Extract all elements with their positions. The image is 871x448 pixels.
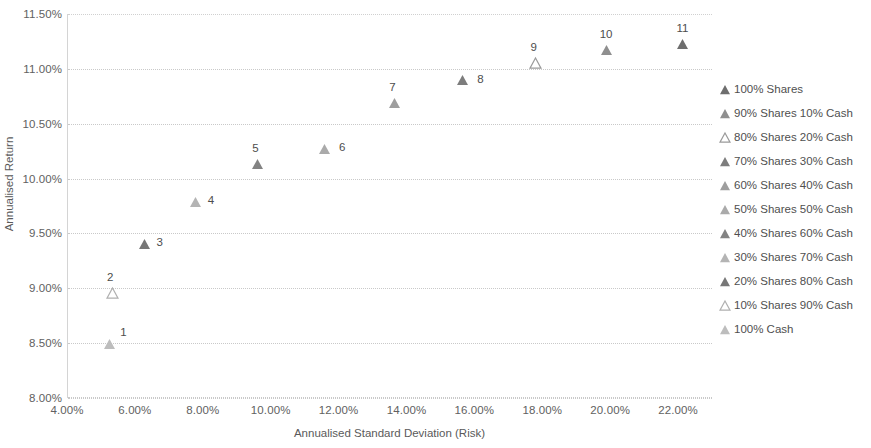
data-point-label: 6 — [339, 141, 345, 153]
legend-item-label: 10% Shares 90% Cash — [734, 300, 853, 312]
x-axis-tick-label: 6.00% — [118, 404, 151, 416]
x-axis-tick-label: 16.00% — [455, 404, 495, 416]
legend-item[interactable]: 10% Shares 90% Cash — [718, 294, 868, 318]
legend-item-label: 80% Shares 20% Cash — [734, 132, 853, 144]
gridline-horizontal — [68, 343, 712, 344]
gridline-horizontal — [68, 69, 712, 70]
legend-item-label: 100% Cash — [734, 324, 793, 336]
x-axis-title: Annualised Standard Deviation (Risk) — [67, 427, 712, 439]
y-axis-tick-label: 9.50% — [2, 227, 62, 239]
y-axis-tick-label: 11.50% — [2, 8, 62, 20]
data-point-label: 9 — [531, 41, 537, 53]
legend-item[interactable]: 90% Shares 10% Cash — [718, 102, 868, 126]
gridline-horizontal — [68, 124, 712, 125]
y-axis-tick-label: 10.00% — [2, 173, 62, 185]
legend-item[interactable]: 20% Shares 80% Cash — [718, 270, 868, 294]
gridline-horizontal — [68, 14, 712, 15]
legend-marker-icon — [718, 252, 731, 265]
chart-legend: 100% Shares90% Shares 10% Cash80% Shares… — [718, 78, 868, 342]
data-point-label: 7 — [389, 81, 395, 93]
legend-item-label: 70% Shares 30% Cash — [734, 156, 853, 168]
y-axis-tick-label: 9.00% — [2, 282, 62, 294]
legend-marker-icon — [718, 276, 731, 289]
legend-item-label: 60% Shares 40% Cash — [734, 180, 853, 192]
plot-area: 1110987654321 — [67, 14, 712, 398]
x-axis-tick-label: 12.00% — [319, 404, 359, 416]
legend-item[interactable]: 40% Shares 60% Cash — [718, 222, 868, 246]
gridline-horizontal — [68, 288, 712, 289]
gridline-horizontal — [68, 179, 712, 180]
y-axis-tick-label: 11.00% — [2, 63, 62, 75]
legend-marker-icon — [718, 324, 731, 337]
legend-item-label: 90% Shares 10% Cash — [734, 108, 853, 120]
data-point-label: 5 — [252, 142, 258, 154]
x-axis-tick-label: 22.00% — [658, 404, 698, 416]
legend-item-label: 100% Shares — [734, 84, 803, 96]
x-axis-tick-label: 18.00% — [522, 404, 562, 416]
legend-marker-icon — [718, 132, 731, 145]
legend-item-label: 20% Shares 80% Cash — [734, 276, 853, 288]
gridline-horizontal — [68, 398, 712, 399]
x-axis-tick-label: 4.00% — [50, 404, 83, 416]
legend-marker-icon — [718, 300, 731, 313]
data-point-label: 1 — [120, 326, 126, 338]
legend-marker-icon — [718, 84, 731, 97]
x-axis-line — [68, 397, 712, 398]
legend-item[interactable]: 100% Cash — [718, 318, 868, 342]
data-point-label: 11 — [676, 22, 688, 34]
legend-marker-icon — [718, 156, 731, 169]
x-axis-tick-label: 10.00% — [251, 404, 291, 416]
legend-item-label: 30% Shares 70% Cash — [734, 252, 853, 264]
legend-item-label: 50% Shares 50% Cash — [734, 204, 853, 216]
legend-item[interactable]: 80% Shares 20% Cash — [718, 126, 868, 150]
x-axis-tick-label: 20.00% — [590, 404, 630, 416]
y-axis-tick-label: 10.50% — [2, 118, 62, 130]
y-axis-tick-label: 8.00% — [2, 392, 62, 404]
data-point-label: 4 — [208, 194, 214, 206]
legend-item[interactable]: 70% Shares 30% Cash — [718, 150, 868, 174]
data-point-label: 3 — [157, 236, 163, 248]
data-point-label: 10 — [600, 28, 613, 40]
gridline-horizontal — [68, 233, 712, 234]
data-point-label: 8 — [477, 73, 483, 85]
legend-item[interactable]: 30% Shares 70% Cash — [718, 246, 868, 270]
legend-marker-icon — [718, 228, 731, 241]
legend-marker-icon — [718, 204, 731, 217]
x-axis-tick-label: 14.00% — [387, 404, 427, 416]
data-point-label: 2 — [107, 271, 113, 283]
legend-item[interactable]: 50% Shares 50% Cash — [718, 198, 868, 222]
y-axis-tick-labels: 8.00%8.50%9.00%9.50%10.00%10.50%11.00%11… — [0, 0, 62, 448]
legend-item[interactable]: 100% Shares — [718, 78, 868, 102]
scatter-chart: Annualised Return 8.00%8.50%9.00%9.50%10… — [0, 0, 871, 448]
legend-marker-icon — [718, 180, 731, 193]
legend-item-label: 40% Shares 60% Cash — [734, 228, 853, 240]
legend-marker-icon — [718, 108, 731, 121]
y-axis-tick-label: 8.50% — [2, 337, 62, 349]
legend-item[interactable]: 60% Shares 40% Cash — [718, 174, 868, 198]
x-axis-tick-label: 8.00% — [186, 404, 219, 416]
